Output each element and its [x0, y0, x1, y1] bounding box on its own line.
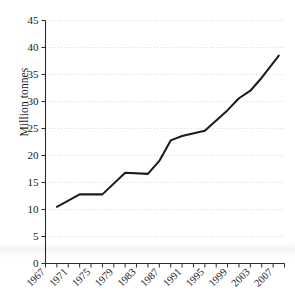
- y-tick-label: 25: [28, 122, 40, 134]
- x-tick-label: 1971: [47, 266, 70, 289]
- series-line: [57, 56, 279, 207]
- chart-canvas: 051015202530354045 196719711975197919831…: [0, 0, 295, 306]
- x-tick-label: 1999: [206, 266, 229, 289]
- y-tick-label: 45: [28, 14, 40, 26]
- line-chart: Million tonnes 051015202530354045 196719…: [0, 0, 295, 306]
- gridlines: [46, 21, 285, 237]
- y-tick-label: 5: [33, 230, 39, 242]
- y-tick-label: 15: [28, 176, 40, 188]
- x-tick-label: 1979: [93, 266, 116, 289]
- data-series: [57, 56, 279, 207]
- y-tick-label: 10: [28, 203, 40, 215]
- x-tick-label: 1991: [161, 266, 184, 289]
- y-tick-label: 20: [28, 149, 40, 161]
- x-tick-label: 1975: [70, 266, 93, 289]
- x-tick-label: 1987: [138, 266, 161, 289]
- x-tick-label: 2003: [229, 266, 252, 289]
- y-axis: [42, 21, 46, 264]
- x-tick-label: 2007: [252, 266, 275, 289]
- x-axis: [46, 264, 285, 268]
- x-tick-labels: 1967197119751979198319871991199519992003…: [24, 266, 274, 289]
- x-tick-label: 1995: [184, 266, 207, 289]
- y-tick-label: 35: [28, 68, 40, 80]
- x-tick-label: 1967: [24, 266, 47, 289]
- y-tick-label: 30: [28, 95, 40, 107]
- y-tick-labels: 051015202530354045: [28, 14, 40, 269]
- y-tick-label: 40: [28, 41, 40, 53]
- x-tick-label: 1983: [115, 266, 138, 289]
